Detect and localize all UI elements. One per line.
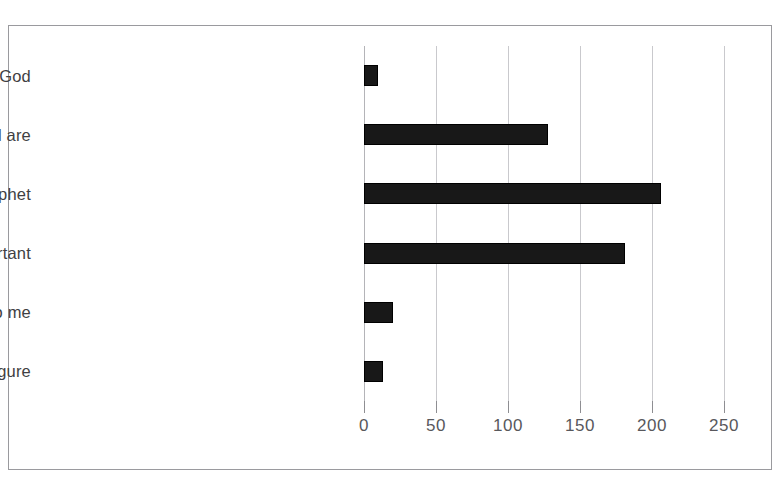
category-label: Story / man irrelevant to me [0, 303, 31, 322]
category-label: Mythical figure [0, 362, 31, 381]
x-axis-tick [652, 401, 653, 413]
category-label: A son of God, as we all are [0, 125, 31, 144]
category-label: Human 1st century Jewish prophet [0, 184, 31, 203]
gridline [724, 46, 725, 401]
x-axis-tick-label: 50 [426, 416, 446, 436]
x-axis-tick-label: 100 [493, 416, 523, 436]
category-label: Teachings, example more important [0, 244, 31, 263]
bar [364, 183, 661, 204]
gridline [436, 46, 437, 401]
x-axis-tick [580, 401, 581, 413]
x-axis-tick-label: 200 [637, 416, 667, 436]
bar [364, 302, 393, 323]
gridline [580, 46, 581, 401]
x-axis-tick [508, 401, 509, 413]
axis-zero-line [364, 46, 365, 401]
x-axis-tick [724, 401, 725, 413]
plot-area: 050100150200250 [364, 46, 724, 401]
x-axis-tick-label: 0 [359, 416, 369, 436]
gridline [652, 46, 653, 401]
bar [364, 243, 625, 264]
x-axis-tick-label: 150 [565, 416, 595, 436]
bar [364, 361, 383, 382]
chart-screenshot: 050100150200250 Son of GodA son of God, … [0, 0, 782, 496]
x-axis-tick [364, 401, 365, 413]
x-axis-tick [436, 401, 437, 413]
bar [364, 65, 378, 86]
gridline [508, 46, 509, 401]
chart-frame: 050100150200250 Son of GodA son of God, … [8, 25, 772, 470]
bar [364, 124, 548, 145]
clipped-caption-text [14, 0, 614, 6]
x-axis-tick-label: 250 [709, 416, 739, 436]
category-label: Son of God [0, 66, 31, 85]
